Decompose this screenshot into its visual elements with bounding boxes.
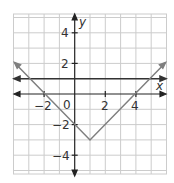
tick-label-y-4: 4 <box>61 26 69 40</box>
tick-label-y-neg2: −2 <box>52 118 70 132</box>
y-axis-label: y <box>78 15 87 29</box>
tick-label-y-2: 2 <box>61 57 69 71</box>
tick-label-x-2: 2 <box>101 99 109 113</box>
tick-label-x-neg2: −2 <box>34 99 52 113</box>
x-axis-label: x <box>155 79 164 93</box>
tick-label-origin: 0 <box>63 98 71 112</box>
tick-label-x-4: 4 <box>131 99 139 113</box>
tick-label-y-neg4: −4 <box>52 149 70 163</box>
coordinate-plane: −2 0 2 4 4 2 −2 −4 x y <box>0 0 174 183</box>
